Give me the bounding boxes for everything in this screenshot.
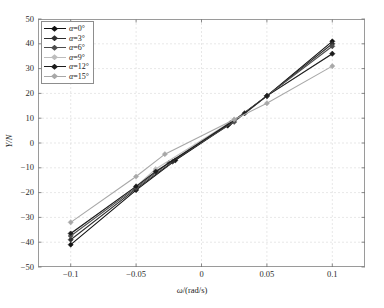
y-tick-label: 40 bbox=[4, 39, 34, 48]
y-axis-title: Y/N bbox=[4, 121, 14, 161]
legend-label: α=9° bbox=[66, 53, 85, 62]
x-tick-label: −0.1 bbox=[49, 270, 93, 279]
legend-item-5[interactable]: α=15° bbox=[44, 72, 89, 82]
legend-marker-icon bbox=[44, 62, 66, 71]
x-tick-label: −0.05 bbox=[114, 270, 158, 279]
x-tick-label: 0.1 bbox=[310, 270, 354, 279]
legend-label: α=15° bbox=[66, 72, 89, 81]
data-point-marker bbox=[330, 64, 335, 69]
y-tick-label: 20 bbox=[4, 89, 34, 98]
legend-item-4[interactable]: α=12° bbox=[44, 62, 89, 72]
y-tick-label: −20 bbox=[4, 188, 34, 197]
legend-item-2[interactable]: α=6° bbox=[44, 43, 89, 53]
legend-label: α=3° bbox=[66, 34, 85, 43]
data-point-marker bbox=[264, 101, 269, 106]
x-axis-title: ω/(rad/s) bbox=[0, 285, 384, 295]
legend-item-3[interactable]: α=9° bbox=[44, 53, 89, 63]
x-tick-label: 0 bbox=[180, 270, 224, 279]
y-axis-title-text: Y/N bbox=[4, 135, 14, 148]
legend-item-1[interactable]: α=3° bbox=[44, 34, 89, 44]
legend-marker-icon bbox=[44, 43, 66, 52]
legend-label: α=0° bbox=[66, 24, 85, 33]
legend-marker-icon bbox=[44, 72, 66, 81]
x-tick-label: 0.05 bbox=[245, 270, 289, 279]
legend-marker-icon bbox=[44, 34, 66, 43]
y-tick-label: −50 bbox=[4, 263, 34, 272]
legend-label: α=6° bbox=[66, 43, 85, 52]
y-tick-label: 30 bbox=[4, 64, 34, 73]
legend-marker-icon bbox=[44, 24, 66, 33]
y-tick-label: −30 bbox=[4, 213, 34, 222]
y-tick-label: 50 bbox=[4, 15, 34, 24]
chart-figure: 50403020100−10−20−30−40−50 −0.1−0.0500.0… bbox=[0, 0, 384, 308]
x-axis-title-text: ω/(rad/s) bbox=[177, 285, 208, 295]
legend: α=0°α=3°α=6°α=9°α=12°α=15° bbox=[41, 21, 94, 84]
legend-label: α=12° bbox=[66, 62, 89, 71]
y-tick-label: −40 bbox=[4, 238, 34, 247]
legend-marker-icon bbox=[44, 53, 66, 62]
legend-item-0[interactable]: α=0° bbox=[44, 24, 89, 34]
y-tick-label: −10 bbox=[4, 163, 34, 172]
